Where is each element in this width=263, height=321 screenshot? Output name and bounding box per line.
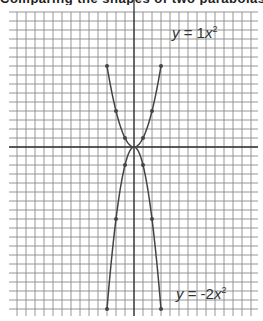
data-point-series-1 — [141, 163, 145, 167]
data-point-series-0 — [159, 64, 163, 68]
data-point-series-1 — [105, 307, 109, 311]
data-point-series-1 — [150, 217, 154, 221]
data-point-series-0 — [141, 136, 145, 140]
parabola-chart: y = 1x2 y = -2x2 — [0, 0, 263, 321]
data-point-series-1 — [123, 163, 127, 167]
data-point-series-0 — [105, 64, 109, 68]
data-point-series-0 — [123, 136, 127, 140]
series-label-y-eq-1x2: y = 1x2 — [171, 24, 217, 41]
axes — [9, 0, 258, 316]
data-point-series-1 — [114, 217, 118, 221]
data-point-series-0 — [114, 109, 118, 113]
data-point-series-0 — [150, 109, 154, 113]
series-label-y-eq-neg2x2: y = -2x2 — [175, 285, 226, 302]
data-point-series-1 — [159, 307, 163, 311]
